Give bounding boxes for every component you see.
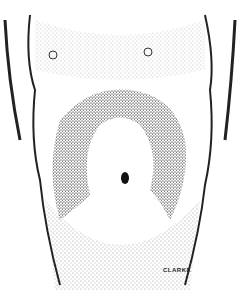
artist-signature: CLARKE <box>163 267 191 273</box>
illustration: CLARKE <box>0 0 242 292</box>
torso-drawing <box>0 0 242 292</box>
